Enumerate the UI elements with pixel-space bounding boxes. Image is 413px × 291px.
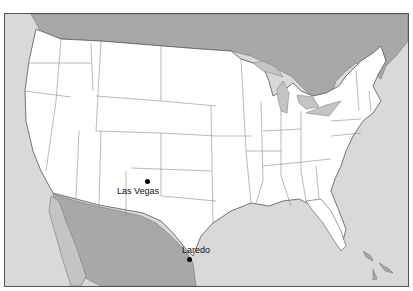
laredo-label: Laredo	[182, 245, 210, 255]
map-frame: Las Vegas Laredo	[4, 13, 409, 287]
laredo-marker[interactable]	[187, 257, 192, 262]
caribbean-islands	[363, 251, 393, 280]
las-vegas-label: Las Vegas	[117, 186, 159, 196]
las-vegas-marker[interactable]	[145, 179, 150, 184]
